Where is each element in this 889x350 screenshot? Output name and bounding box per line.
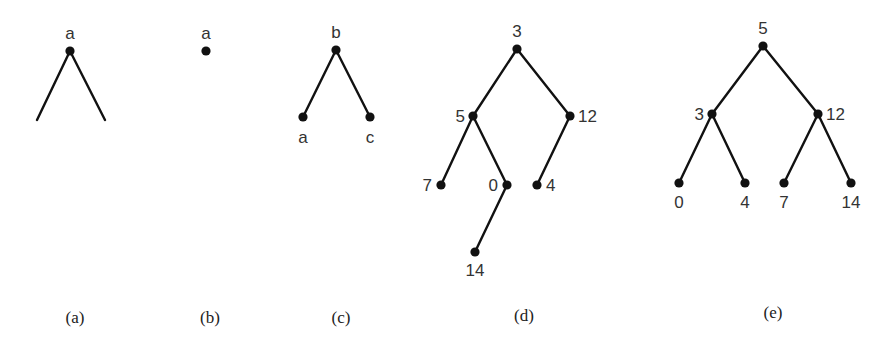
node-label-e-5: 5 [758, 19, 767, 38]
dangling-edge-a-0 [37, 51, 70, 120]
caption-2: (c) [332, 308, 351, 327]
node-label-d-14: 14 [466, 261, 485, 280]
tree-node-d-5 [468, 111, 477, 120]
tree-edge-d-5-7 [441, 116, 473, 185]
tree-node-e-0 [674, 178, 683, 187]
tree-node-d-12 [565, 111, 574, 120]
tree-node-b-a [201, 46, 210, 55]
nodes-layer [65, 41, 855, 256]
node-label-d-3: 3 [512, 22, 521, 41]
tree-node-d-4 [532, 180, 541, 189]
caption-3: (d) [514, 306, 534, 325]
node-label-e-12: 12 [826, 105, 845, 124]
labels-layer: aabac351270414531204714 [65, 19, 860, 280]
node-label-d-7: 7 [423, 176, 432, 195]
caption-1: (b) [200, 308, 220, 327]
node-label-e-4: 4 [740, 193, 749, 212]
tree-node-d-7 [436, 180, 445, 189]
tree-edge-c-b-c [336, 50, 370, 117]
binary-trees-figure: aabac351270414531204714 (a)(b)(c)(d)(e) [0, 0, 889, 350]
tree-edge-d-5-0 [473, 116, 507, 185]
edges-layer [37, 46, 851, 252]
tree-edge-d-3-5 [473, 49, 517, 116]
node-label-c-a: a [298, 128, 308, 147]
dangling-edge-a-1 [70, 51, 105, 120]
node-label-c-b: b [331, 23, 340, 42]
node-label-e-7: 7 [779, 193, 788, 212]
tree-edge-e-3-4 [712, 114, 745, 183]
node-label-d-4: 4 [546, 176, 555, 195]
node-label-d-12: 12 [578, 107, 597, 126]
captions-layer: (a)(b)(c)(d)(e) [66, 303, 783, 327]
tree-node-d-14 [470, 247, 479, 256]
node-label-d-0: 0 [489, 176, 498, 195]
tree-edge-c-b-a [303, 50, 336, 117]
tree-node-a-a [65, 46, 74, 55]
node-label-e-0: 0 [674, 193, 683, 212]
caption-0: (a) [66, 308, 85, 327]
tree-node-e-12 [813, 109, 822, 118]
tree-node-e-7 [779, 178, 788, 187]
node-label-e-3: 3 [695, 105, 704, 124]
tree-node-d-0 [502, 180, 511, 189]
tree-node-e-5 [758, 41, 767, 50]
tree-node-c-b [331, 45, 340, 54]
caption-4: (e) [764, 303, 783, 322]
tree-node-e-4 [740, 178, 749, 187]
tree-node-c-c [365, 112, 374, 121]
node-label-c-c: c [366, 128, 375, 147]
tree-edge-d-3-12 [517, 49, 570, 116]
tree-edge-e-5-12 [763, 46, 818, 114]
tree-edge-e-5-3 [712, 46, 763, 114]
tree-edge-d-0-14 [475, 185, 507, 252]
tree-edge-e-12-14 [818, 114, 851, 183]
tree-edge-e-3-0 [679, 114, 712, 183]
tree-node-c-a [298, 112, 307, 121]
node-label-e-14: 14 [842, 193, 861, 212]
tree-node-e-3 [707, 109, 716, 118]
tree-node-e-14 [846, 178, 855, 187]
tree-node-d-3 [512, 44, 521, 53]
tree-edge-e-12-7 [784, 114, 818, 183]
node-label-a-a: a [65, 24, 75, 43]
node-label-d-5: 5 [456, 107, 465, 126]
node-label-b-a: a [201, 24, 211, 43]
tree-edge-d-12-4 [537, 116, 570, 185]
